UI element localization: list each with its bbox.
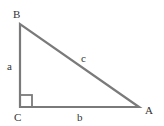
vertex-label-b: B	[13, 8, 20, 20]
side-label-b: b	[77, 111, 83, 123]
vertex-label-c: C	[14, 111, 21, 123]
side-label-a: a	[7, 60, 12, 72]
triangle-outline	[20, 24, 139, 107]
right-angle-marker	[20, 95, 32, 107]
vertex-label-a: A	[145, 104, 153, 116]
side-label-c: c	[81, 52, 86, 64]
right-triangle-diagram: B C A a b c	[0, 0, 164, 126]
